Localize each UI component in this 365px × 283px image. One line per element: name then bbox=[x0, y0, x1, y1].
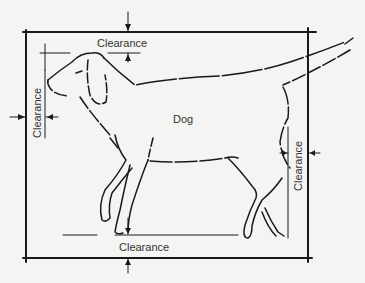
right-clearance-label: Clearance bbox=[293, 141, 304, 191]
left-clearance-label: Clearance bbox=[32, 88, 43, 138]
top-clearance-label: Clearance bbox=[97, 38, 147, 49]
bottom-clearance-label: Clearance bbox=[119, 242, 169, 253]
diagram-canvas bbox=[0, 0, 365, 283]
enclosure-box bbox=[23, 28, 316, 262]
dog-label: Dog bbox=[173, 114, 193, 125]
